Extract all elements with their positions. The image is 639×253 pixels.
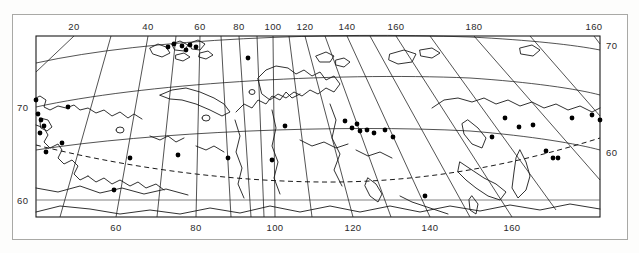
site-marker xyxy=(355,122,360,127)
lon-bottom-tick-5: 160 xyxy=(503,222,520,233)
lon-top-tick-8: 180 xyxy=(465,21,482,32)
site-marker xyxy=(38,131,43,136)
lat-right-tick-1: 60 xyxy=(606,147,617,158)
lon-top-tick-7: 160 xyxy=(387,21,404,32)
site-marker xyxy=(39,118,44,123)
lon-bottom-tick-0: 60 xyxy=(110,222,121,233)
lat-left-tick-1: 60 xyxy=(17,195,28,206)
lon-top-tick-1: 40 xyxy=(142,21,153,32)
site-marker xyxy=(188,43,193,48)
site-marker xyxy=(590,113,595,118)
site-marker xyxy=(570,116,575,121)
site-marker xyxy=(365,128,370,133)
site-marker xyxy=(270,158,275,163)
site-marker xyxy=(598,118,603,123)
site-marker xyxy=(556,156,561,161)
site-marker xyxy=(391,135,396,140)
lon-top-tick-9: 160 xyxy=(585,21,602,32)
lon-bottom-tick-3: 120 xyxy=(344,222,361,233)
site-marker xyxy=(544,149,549,154)
lat-right-tick-0: 70 xyxy=(606,40,617,51)
lon-bottom-tick-4: 140 xyxy=(421,222,438,233)
site-marker xyxy=(34,98,39,103)
lon-top-tick-2: 60 xyxy=(194,21,205,32)
lon-bottom-tick-2: 100 xyxy=(266,222,283,233)
lon-top-tick-3: 80 xyxy=(233,21,244,32)
site-marker xyxy=(283,124,288,129)
lon-top-tick-0: 20 xyxy=(68,21,79,32)
site-marker xyxy=(42,124,47,129)
site-marker xyxy=(503,116,508,121)
site-marker xyxy=(112,188,117,193)
site-marker xyxy=(180,44,185,49)
site-marker xyxy=(383,128,388,133)
figure-page: 20406080100120140160180160 6080100120140… xyxy=(0,0,639,253)
site-marker xyxy=(44,150,49,155)
site-marker xyxy=(517,125,522,130)
site-marker xyxy=(490,135,495,140)
site-marker xyxy=(128,156,133,161)
lon-top-tick-5: 120 xyxy=(296,21,313,32)
site-marker xyxy=(350,126,355,131)
lon-top-tick-6: 140 xyxy=(338,21,355,32)
site-marker xyxy=(60,141,65,146)
site-marker xyxy=(531,123,536,128)
lon-top-tick-4: 100 xyxy=(264,21,281,32)
site-marker xyxy=(372,131,377,136)
map-graphic xyxy=(0,0,639,253)
site-marker xyxy=(66,105,71,110)
site-marker xyxy=(194,45,199,50)
site-marker xyxy=(423,194,428,199)
site-marker xyxy=(184,48,189,53)
site-marker xyxy=(343,119,348,124)
site-marker xyxy=(176,153,181,158)
lon-bottom-tick-1: 80 xyxy=(190,222,201,233)
site-marker xyxy=(172,42,177,47)
lat-left-tick-0: 70 xyxy=(17,102,28,113)
site-marker xyxy=(246,56,251,61)
site-marker xyxy=(36,112,41,117)
site-marker xyxy=(551,156,556,161)
site-marker xyxy=(358,129,363,134)
site-marker xyxy=(226,156,231,161)
site-marker xyxy=(166,45,171,50)
